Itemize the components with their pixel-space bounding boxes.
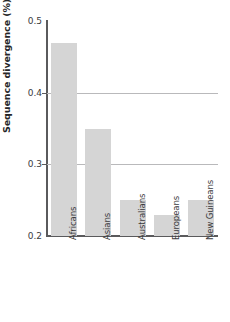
y-axis-tick-label: 0.5 [28,17,42,26]
x-axis-label: New Guineans [205,180,215,240]
y-axis-tick-label: 0.3 [28,160,42,169]
x-axis-label: Europeans [171,196,181,240]
x-axis-label: Africans [68,207,78,240]
x-axis-label: Australians [137,194,147,240]
y-axis-tick-label: 0.4 [28,88,42,97]
y-axis-tick-label: 0.2 [28,232,42,241]
y-axis-tick-mark [42,164,47,165]
y-axis-title: Sequence divergence (%) [1,3,17,133]
plot-area: 0.20.30.40.5 [47,21,218,236]
x-axis-label: Asians [102,213,112,240]
y-axis-tick-mark [42,93,47,94]
bar-chart-figure: Sequence divergence (%) 0.20.30.40.5 Afr… [0,0,230,322]
